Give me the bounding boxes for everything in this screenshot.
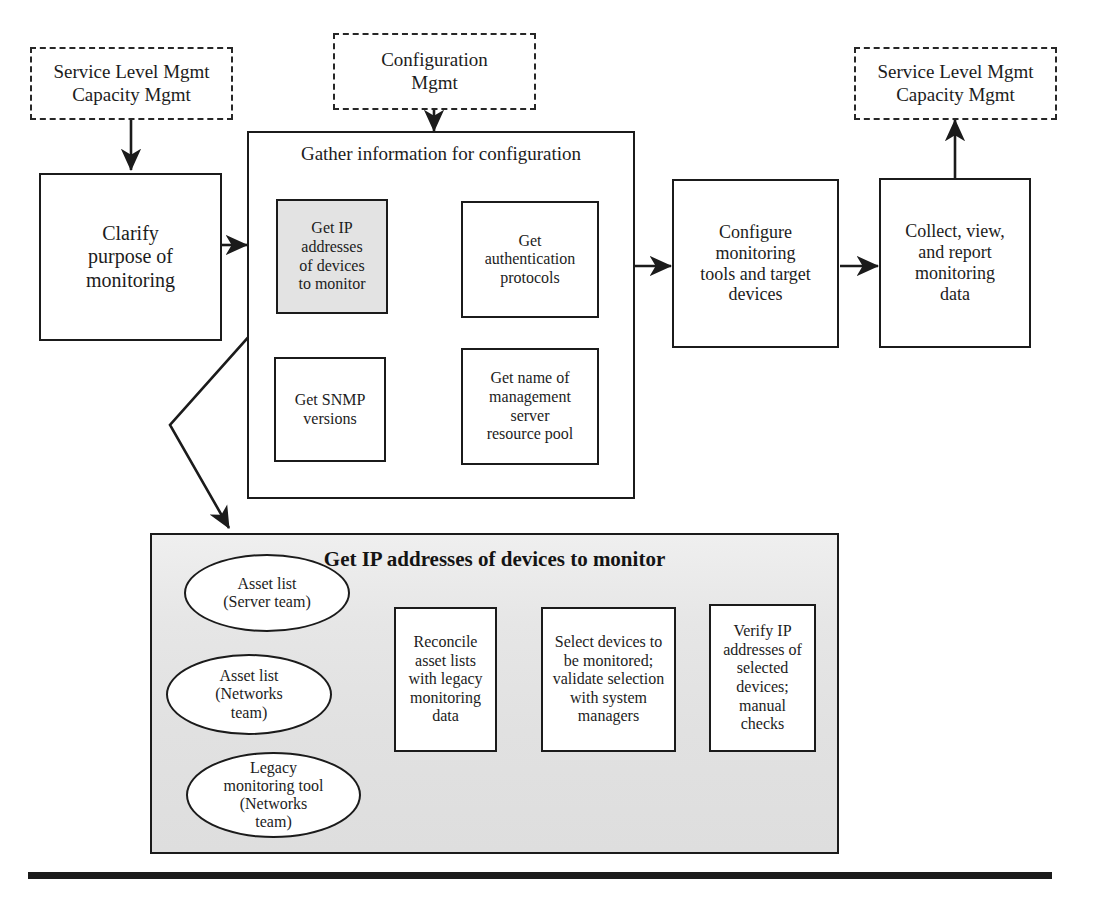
slm-right-line1: Service Level Mgmt: [877, 61, 1033, 83]
reconcile-line1: Reconcile: [408, 633, 482, 652]
input-configuration-mgmt: Configuration Mgmt: [333, 33, 536, 110]
output-service-level-capacity-mgmt-right: Service Level Mgmt Capacity Mgmt: [854, 47, 1057, 120]
configmgmt-line1: Configuration: [381, 49, 488, 71]
gather-container-title: Gather information for configuration: [249, 143, 633, 165]
input-service-level-capacity-mgmt-left: Service Level Mgmt Capacity Mgmt: [30, 47, 233, 120]
substep-verify-ip-addresses-of-selected-devices: Verify IP addresses of selected devices;…: [709, 604, 816, 752]
step-configure-monitoring-tools-and-target-devices: Configure monitoring tools and target de…: [672, 179, 839, 348]
verify-line1: Verify IP: [723, 622, 802, 641]
getsnmp-line1: Get SNMP: [295, 391, 366, 410]
step-clarify-purpose-of-monitoring: Clarify purpose of monitoring: [39, 173, 222, 341]
step-get-authentication-protocols: Get authentication protocols: [461, 201, 599, 318]
reconcile-line3: with legacy: [408, 670, 482, 689]
configure-line4: devices: [700, 284, 811, 305]
verify-line4: devices;: [723, 678, 802, 697]
getauth-line2: authentication: [485, 250, 576, 269]
substep-reconcile-asset-lists: Reconcile asset lists with legacy monito…: [394, 607, 497, 752]
reconcile-line5: data: [408, 707, 482, 726]
clarify-line1: Clarify: [86, 222, 175, 245]
source-asset-list-networks-team: Asset list (Networks team): [166, 654, 332, 735]
legacy-line3: (Networks: [224, 795, 324, 813]
configure-line3: tools and target: [700, 264, 811, 285]
assetnet-line3: team): [215, 704, 283, 722]
step-get-ip-addresses-of-devices-to-monitor: Get IP addresses of devices to monitor: [276, 199, 388, 314]
select-line2: be monitored;: [553, 652, 665, 671]
verify-line5: manual: [723, 697, 802, 716]
getpool-line2: management: [487, 388, 574, 407]
select-line4: with system: [553, 689, 665, 708]
reconcile-line4: monitoring: [408, 689, 482, 708]
collect-line1: Collect, view,: [905, 221, 1004, 242]
getauth-line3: protocols: [485, 269, 576, 288]
clarify-line2: purpose of: [86, 245, 175, 268]
configmgmt-line2: Mgmt: [381, 72, 488, 94]
getsnmp-line2: versions: [295, 410, 366, 429]
step-collect-view-and-report-monitoring-data: Collect, view, and report monitoring dat…: [879, 178, 1031, 348]
getpool-line1: Get name of: [487, 369, 574, 388]
assetserver-line1: Asset list: [223, 575, 311, 593]
step-get-snmp-versions: Get SNMP versions: [274, 357, 386, 462]
slm-left-line2: Capacity Mgmt: [53, 84, 209, 106]
getip-line4: to monitor: [298, 275, 365, 294]
verify-line2: addresses of: [723, 641, 802, 660]
getpool-line4: resource pool: [487, 425, 574, 444]
select-line1: Select devices to: [553, 633, 665, 652]
diagram-canvas: Service Level Mgmt Capacity Mgmt Configu…: [0, 0, 1096, 901]
substep-select-devices-to-be-monitored: Select devices to be monitored; validate…: [541, 607, 676, 752]
collect-line2: and report: [905, 242, 1004, 263]
slm-left-line1: Service Level Mgmt: [53, 61, 209, 83]
select-line5: managers: [553, 707, 665, 726]
getip-line1: Get IP: [298, 219, 365, 238]
assetnet-line1: Asset list: [215, 667, 283, 685]
getauth-line1: Get: [485, 232, 576, 251]
collect-line3: monitoring: [905, 263, 1004, 284]
legacy-line1: Legacy: [224, 759, 324, 777]
select-line3: validate selection: [553, 670, 665, 689]
source-asset-list-server-team: Asset list (Server team): [184, 554, 350, 632]
source-legacy-monitoring-tool-networks-team: Legacy monitoring tool (Networks team): [186, 752, 361, 838]
assetnet-line2: (Networks: [215, 685, 283, 703]
configure-line1: Configure: [700, 222, 811, 243]
configure-line2: monitoring: [700, 243, 811, 264]
step-get-name-of-management-server-resource-pool: Get name of management server resource p…: [461, 348, 599, 465]
legacy-line2: monitoring tool: [224, 777, 324, 795]
bottom-horizontal-rule: [28, 872, 1052, 879]
legacy-line4: team): [224, 813, 324, 831]
slm-right-line2: Capacity Mgmt: [877, 84, 1033, 106]
getip-line3: of devices: [298, 257, 365, 276]
verify-line6: checks: [723, 715, 802, 734]
clarify-line3: monitoring: [86, 269, 175, 292]
collect-line4: data: [905, 284, 1004, 305]
reconcile-line2: asset lists: [408, 652, 482, 671]
getpool-line3: server: [487, 407, 574, 426]
assetserver-line2: (Server team): [223, 593, 311, 611]
verify-line3: selected: [723, 659, 802, 678]
getip-line2: addresses: [298, 238, 365, 257]
